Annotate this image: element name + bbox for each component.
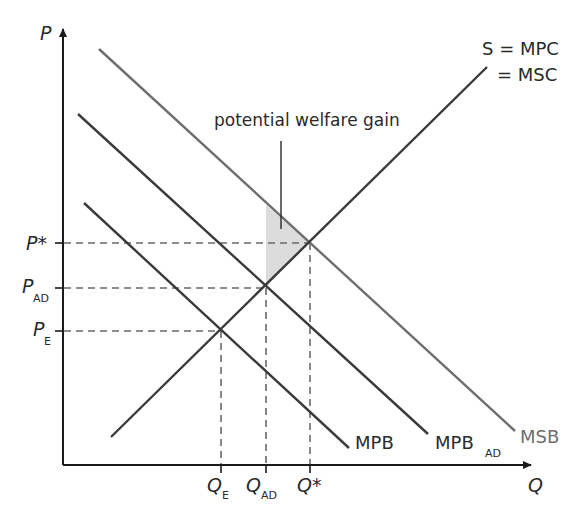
supply-label-line2: = MSC [497, 64, 557, 85]
mpb-label: MPB [355, 432, 394, 453]
mpb-ad-curve [78, 114, 428, 434]
msb-label: MSB [520, 426, 559, 447]
p-star-label: P* [26, 232, 47, 254]
welfare-gain-area [266, 205, 309, 287]
q-ad-label: Q [246, 474, 261, 496]
q-e-label: Q [207, 474, 222, 496]
x-axis-label: Q [528, 474, 543, 496]
mpb-ad-subscript: AD [485, 447, 501, 460]
y-axis-label: P [40, 22, 52, 44]
q-ad-subscript: AD [261, 489, 277, 502]
supply-label-line1: S = MPC [482, 38, 559, 59]
mpb-ad-label: MPB [435, 432, 474, 453]
q-e-subscript: E [222, 489, 229, 502]
q-star-label: Q* [297, 474, 321, 496]
p-ad-subscript: AD [33, 292, 49, 305]
p-e-subscript: E [44, 335, 51, 348]
welfare-gain-annotation: potential welfare gain [214, 110, 400, 130]
msb-curve [99, 49, 515, 431]
welfare-diagram: P Q P* P AD P E Q E Q AD Q* S = MPC = MS… [0, 0, 581, 513]
